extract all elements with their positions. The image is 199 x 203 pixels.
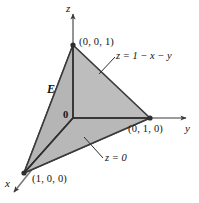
vertex-dot-x — [21, 170, 26, 175]
vertex-dot-z — [70, 42, 75, 47]
figure-caption — [0, 195, 199, 203]
vertex-dot-y — [147, 115, 152, 120]
equation-label-top-surface: z = 1 − x − y — [116, 51, 172, 62]
y-axis-label: y — [185, 123, 190, 134]
leader-top-surface — [99, 57, 115, 74]
x-axis-label: x — [5, 178, 10, 189]
vertex-label-1-0-0: (1, 0, 0) — [32, 174, 67, 185]
equation-label-bottom-surface: z = 0 — [105, 153, 127, 164]
region-label-E: E — [47, 83, 55, 95]
z-axis-label: z — [66, 3, 70, 14]
tetrahedron-figure: z y x 0 E (0, 0, 1) (0, 1, 0) (1, 0, 0) … — [0, 0, 199, 203]
vertex-label-0-1-0: (0, 1, 0) — [128, 124, 163, 135]
tetrahedron-solid — [24, 45, 150, 173]
vertex-label-0-0-1: (0, 0, 1) — [79, 37, 114, 48]
origin-label: 0 — [63, 110, 68, 121]
figure-canvas — [0, 0, 199, 203]
